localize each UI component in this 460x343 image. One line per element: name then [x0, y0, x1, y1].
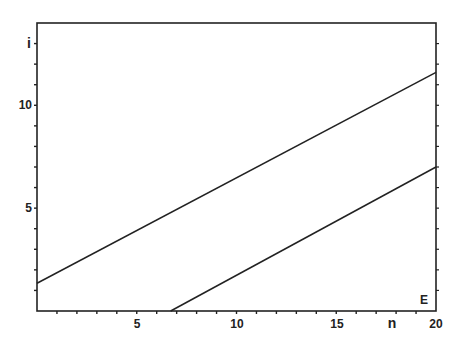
series-line-1 [37, 72, 436, 283]
line-chart: i n E 5 10 15 20 5 10 [0, 0, 460, 343]
y-tick-label-10: 10 [19, 98, 33, 112]
x-tick-label-20: 20 [429, 317, 443, 331]
x-tick-label-15: 15 [330, 317, 344, 331]
x-axis-label: n [388, 315, 397, 331]
y-tick-label-5: 5 [25, 201, 32, 215]
y-axis-label: i [27, 35, 31, 51]
x-tick-label-5: 5 [134, 317, 141, 331]
series-line-2 [171, 167, 436, 311]
plot-frame [37, 23, 436, 311]
data-series [37, 72, 436, 311]
corner-label: E [420, 293, 428, 307]
x-tick-label-10: 10 [230, 317, 244, 331]
